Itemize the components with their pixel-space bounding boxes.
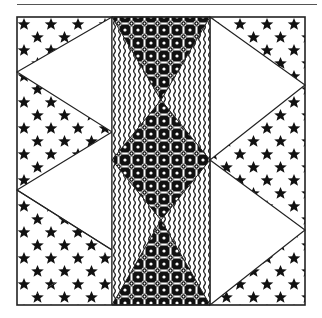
right-column bbox=[210, 17, 305, 305]
left-column bbox=[17, 17, 112, 305]
center-column bbox=[112, 17, 210, 305]
quilt-block bbox=[0, 0, 322, 318]
